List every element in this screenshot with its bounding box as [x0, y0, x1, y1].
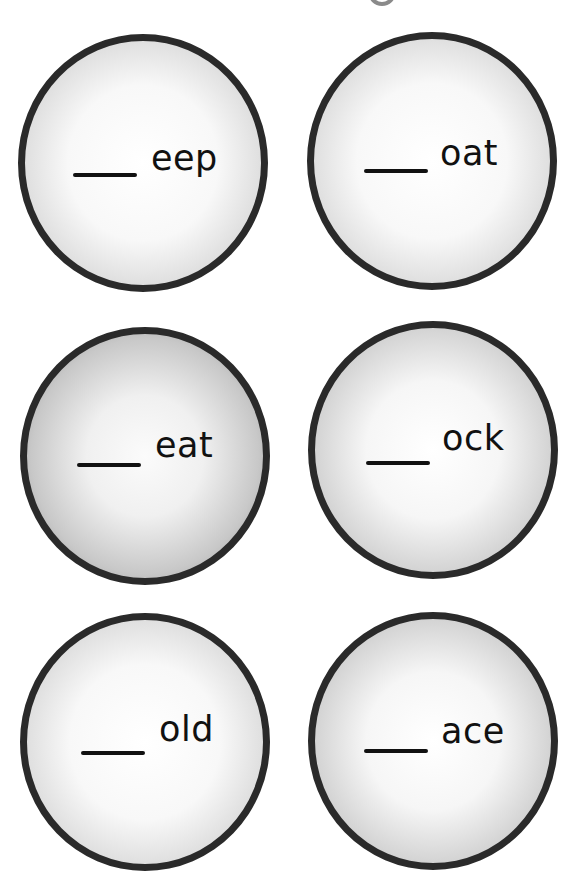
word-ending: eat	[155, 428, 213, 463]
word-card-ace: ace	[308, 612, 558, 870]
word-ending: eep	[151, 141, 218, 176]
blank-line	[73, 173, 137, 177]
blank-line	[81, 751, 145, 755]
word-card-eat: eat	[20, 327, 270, 585]
blank-line	[364, 169, 428, 173]
word-ending: ock	[442, 421, 504, 456]
title-fragment-g-icon	[368, 0, 396, 6]
word-ending: old	[159, 712, 214, 747]
blank-line	[364, 749, 428, 753]
word-ending: oat	[440, 136, 498, 171]
word-card-old: old	[20, 613, 270, 871]
blank-line	[77, 463, 141, 467]
blank-line	[366, 461, 430, 465]
word-card-ock: ock	[308, 321, 558, 579]
word-card-oat: oat	[307, 32, 557, 290]
word-ending: ace	[441, 714, 505, 749]
word-card-eep: eep	[18, 34, 268, 292]
